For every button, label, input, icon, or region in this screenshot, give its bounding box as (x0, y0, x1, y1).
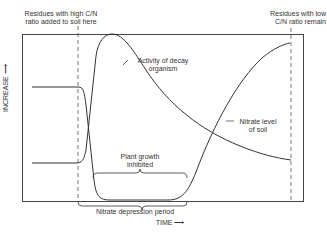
plant-growth-brace (93, 169, 187, 178)
decay-leader (123, 60, 128, 65)
diagram-canvas (0, 0, 327, 236)
nitrate-curve (32, 43, 290, 200)
depression-brace (78, 202, 187, 210)
plot-frame (23, 35, 304, 202)
decay-curve (32, 34, 291, 163)
